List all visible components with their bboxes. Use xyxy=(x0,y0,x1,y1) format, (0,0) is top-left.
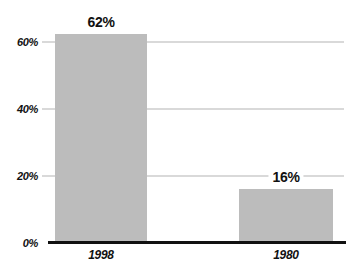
y-tick-label-0%: 0% xyxy=(0,237,38,249)
x-axis-line xyxy=(48,241,346,244)
bar-value-label-1998: 62% xyxy=(83,14,118,30)
bar-1998 xyxy=(55,34,147,242)
x-axis-label-1998: 1998 xyxy=(88,248,114,262)
y-tick-label-20%: 20% xyxy=(0,170,38,182)
bar-value-label-1980: 16% xyxy=(268,169,303,185)
bar-1980 xyxy=(239,189,333,242)
bar-chart: 60%40%20%0% 62%16% 19981980 xyxy=(0,0,364,268)
y-tick-label-60%: 60% xyxy=(0,36,38,48)
x-axis-label-1980: 1980 xyxy=(273,248,299,262)
y-tick-label-40%: 40% xyxy=(0,103,38,115)
